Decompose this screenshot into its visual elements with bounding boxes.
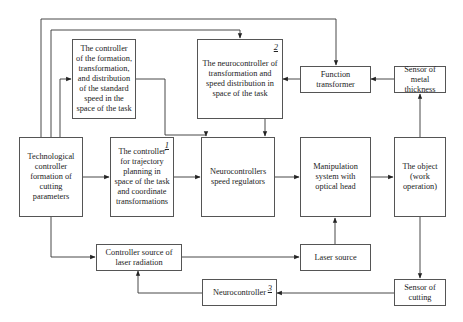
tech-controller-label: Technological controller formation of cu… xyxy=(23,152,79,202)
neurocontroller-label: Neurocontroller xyxy=(213,288,266,298)
neurocontroller-block: 3 Neurocontroller xyxy=(202,279,277,306)
laser-source-label: Laser source xyxy=(314,253,356,263)
arrow-tech-to-formation-controller xyxy=(60,79,71,137)
arrow-formation-to-neuro-speed xyxy=(136,79,206,136)
sensor-metal-label: Sensor of metal thickness xyxy=(398,65,442,95)
neuro-transform-label: The neurocontroller of transformation an… xyxy=(201,59,279,99)
sensor-cutting-block: Sensor of cutting xyxy=(394,279,446,306)
arrow-neurocontroller-to-laser-controller xyxy=(138,271,202,293)
function-transformer-block: Function transformer xyxy=(300,66,371,93)
laser-controller-block: Controller source of laser radiation xyxy=(96,244,182,271)
block-number-2: 2 xyxy=(274,42,278,52)
formation-controller-block: The controller of the formation, transfo… xyxy=(72,39,136,119)
laser-controller-label: Controller source of laser radiation xyxy=(100,248,178,268)
trajectory-controller-block: 1 The controller for trajectory planning… xyxy=(110,137,174,217)
trajectory-controller-label: The controller for trajectory planning i… xyxy=(114,147,170,207)
neuro-speed-block: Neurocontrollers speed regulators xyxy=(201,137,275,217)
manipulation-label: Manipulation system with optical head xyxy=(304,162,367,192)
neuro-speed-label: Neurocontrollers speed regulators xyxy=(205,167,271,187)
tech-controller-block: Technological controller formation of cu… xyxy=(19,137,83,217)
sensor-metal-block: Sensor of metal thickness xyxy=(394,66,446,93)
function-transformer-label: Function transformer xyxy=(304,70,367,90)
neuro-transform-block: 2 The neurocontroller of transformation … xyxy=(197,39,283,119)
laser-source-block: Laser source xyxy=(300,244,371,271)
block-number-1: 1 xyxy=(165,140,169,150)
formation-controller-label: The controller of the formation, transfo… xyxy=(76,44,132,114)
sensor-cutting-label: Sensor of cutting xyxy=(398,283,442,303)
arrow-tech-to-laser-controller xyxy=(51,217,95,257)
object-label: The object (work operation) xyxy=(398,162,442,192)
object-block: The object (work operation) xyxy=(394,137,446,217)
manipulation-block: Manipulation system with optical head xyxy=(300,137,371,217)
block-number-3: 3 xyxy=(268,283,272,293)
